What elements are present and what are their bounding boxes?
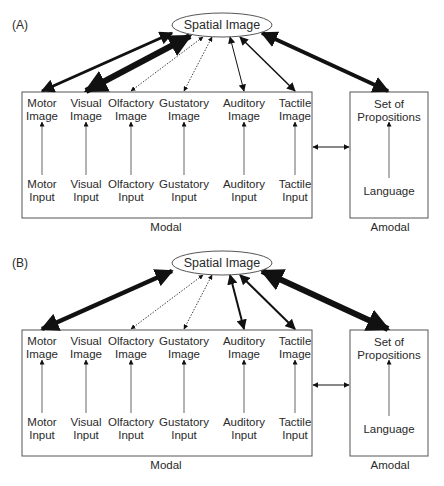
panel-label-a-line: (A) xyxy=(12,18,28,32)
modal-input-node: TactileInput xyxy=(279,178,312,204)
modal-image-node-line: Image xyxy=(108,348,154,361)
modal-image-node: OlfactoryImage xyxy=(108,335,154,361)
modal-input-node: AuditoryInput xyxy=(223,178,265,204)
modal-input-node-line: Gustatory xyxy=(159,416,209,429)
modal-image-node-line: Image xyxy=(279,110,312,123)
modal-input-node: MotorInput xyxy=(27,178,56,204)
diagram-canvas xyxy=(0,0,444,486)
modal-input-node-line: Input xyxy=(108,429,154,442)
modal-image-node-line: Gustatory xyxy=(159,97,209,110)
link-propositions-to-spatial-arrow xyxy=(262,271,388,329)
modal-input-node: GustatoryInput xyxy=(159,416,209,442)
modal-image-node-line: Olfactory xyxy=(108,335,154,348)
modal-image-node-line: Tactile xyxy=(279,335,312,348)
spatial-image-label-line: Spatial Image xyxy=(184,18,260,32)
modal-input-node-line: Tactile xyxy=(279,416,312,429)
modal-input-node: AuditoryInput xyxy=(223,416,265,442)
propositions-node-line: Set of xyxy=(357,336,420,349)
modal-input-node: OlfactoryInput xyxy=(108,178,154,204)
modal-input-node: GustatoryInput xyxy=(159,178,209,204)
modal-image-node: TactileImage xyxy=(279,335,312,361)
modal-image-node-line: Image xyxy=(26,348,58,361)
modal-image-node-line: Image xyxy=(26,110,58,123)
modal-input-node-line: Input xyxy=(279,191,312,204)
spatial-image-label-line: Spatial Image xyxy=(184,256,260,270)
modal-input-node-line: Input xyxy=(223,191,265,204)
modal-image-node-line: Auditory xyxy=(223,335,265,348)
link-gustatory-to-spatial-arrow xyxy=(184,37,212,91)
modal-image-node-line: Visual xyxy=(70,335,102,348)
amodal-caption: Amodal xyxy=(371,221,410,233)
modal-image-node: MotorImage xyxy=(26,97,58,123)
modal-image-node-line: Image xyxy=(70,110,102,123)
modal-image-node-line: Image xyxy=(223,110,265,123)
language-node-line: Language xyxy=(363,185,414,198)
modal-image-node-line: Image xyxy=(159,348,209,361)
modal-input-node: TactileInput xyxy=(279,416,312,442)
modal-input-node-line: Auditory xyxy=(223,416,265,429)
panel-label-b: (B) xyxy=(12,256,28,270)
link-auditory-to-spatial-arrow xyxy=(230,37,244,91)
modal-image-node: AuditoryImage xyxy=(223,97,265,123)
modal-image-node-line: Image xyxy=(223,348,265,361)
panel-label-b-line: (B) xyxy=(12,256,28,270)
modal-image-node: AuditoryImage xyxy=(223,335,265,361)
modal-image-node: OlfactoryImage xyxy=(108,97,154,123)
modal-input-node: MotorInput xyxy=(27,416,56,442)
modal-image-node-line: Image xyxy=(279,348,312,361)
spatial-image-label: Spatial Image xyxy=(184,256,260,270)
modal-image-node: GustatoryImage xyxy=(159,97,209,123)
modal-input-node-line: Auditory xyxy=(223,178,265,191)
modal-caption-line: Modal xyxy=(150,459,181,471)
language-node-line: Language xyxy=(363,423,414,436)
modal-image-node-line: Gustatory xyxy=(159,335,209,348)
modal-caption-line: Modal xyxy=(150,221,181,233)
link-motor-to-spatial-arrow xyxy=(42,271,172,329)
modal-input-node-line: Input xyxy=(223,429,265,442)
modal-image-node-line: Visual xyxy=(70,97,102,110)
modal-input-node-line: Visual xyxy=(70,178,101,191)
modal-image-node: VisualImage xyxy=(70,335,102,361)
amodal-caption-line: Amodal xyxy=(371,221,410,233)
modal-image-node: VisualImage xyxy=(70,97,102,123)
propositions-node-line: Set of xyxy=(357,98,420,111)
modal-input-node-line: Motor xyxy=(27,416,56,429)
amodal-caption: Amodal xyxy=(371,459,410,471)
modal-image-node: TactileImage xyxy=(279,97,312,123)
modal-input-node-line: Tactile xyxy=(279,178,312,191)
modal-image-node-line: Auditory xyxy=(223,97,265,110)
modal-input-node-line: Input xyxy=(70,429,101,442)
link-gustatory-to-spatial-arrow xyxy=(184,275,212,329)
link-propositions-to-spatial-arrow xyxy=(262,33,388,91)
panel-label-a: (A) xyxy=(12,18,28,32)
propositions-node-line: Propositions xyxy=(357,349,420,362)
modal-image-node-line: Motor xyxy=(26,335,58,348)
propositions-node: Set ofPropositions xyxy=(357,98,420,124)
modal-image-node-line: Tactile xyxy=(279,97,312,110)
modal-image-node-line: Image xyxy=(159,110,209,123)
modal-input-node-line: Input xyxy=(108,191,154,204)
modal-input-node-line: Visual xyxy=(70,416,101,429)
language-node: Language xyxy=(363,185,414,198)
modal-image-node-line: Image xyxy=(108,110,154,123)
spatial-image-label: Spatial Image xyxy=(184,18,260,32)
link-auditory-to-spatial-arrow xyxy=(230,275,244,329)
modal-input-node-line: Input xyxy=(159,191,209,204)
language-node: Language xyxy=(363,423,414,436)
modal-input-node-line: Motor xyxy=(27,178,56,191)
modal-image-node: MotorImage xyxy=(26,335,58,361)
modal-input-node-line: Olfactory xyxy=(108,178,154,191)
modal-input-node-line: Input xyxy=(27,429,56,442)
modal-caption: Modal xyxy=(150,459,181,471)
modal-input-node-line: Input xyxy=(27,191,56,204)
propositions-node-line: Propositions xyxy=(357,111,420,124)
modal-input-node: VisualInput xyxy=(70,178,101,204)
modal-input-node-line: Input xyxy=(70,191,101,204)
modal-input-node-line: Input xyxy=(279,429,312,442)
modal-input-node-line: Olfactory xyxy=(108,416,154,429)
modal-input-node-line: Gustatory xyxy=(159,178,209,191)
modal-image-node-line: Olfactory xyxy=(108,97,154,110)
modal-input-node-line: Input xyxy=(159,429,209,442)
amodal-caption-line: Amodal xyxy=(371,459,410,471)
modal-image-node-line: Image xyxy=(70,348,102,361)
